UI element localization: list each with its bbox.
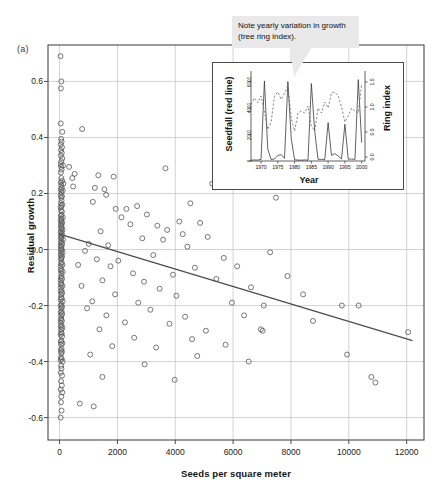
scatter-point: [177, 219, 182, 224]
scatter-point: [144, 212, 149, 217]
scatter-point: [180, 232, 185, 237]
inset-y2-axis-title: Ring index: [382, 48, 392, 168]
x-tick-label: 6000: [224, 447, 243, 457]
x-tick-label: 8000: [281, 447, 300, 457]
scatter-point: [58, 121, 63, 126]
y-axis-title: Residual growth: [25, 156, 36, 316]
inset-x-tick-label: 1985: [306, 164, 317, 170]
inset-y-tick-label: 6000: [247, 76, 252, 86]
scatter-point: [157, 286, 162, 291]
scatter-point: [60, 129, 65, 134]
scatter-point: [106, 243, 111, 248]
scatter-point: [85, 306, 90, 311]
y-tick-label: 0.4: [18, 132, 43, 142]
scatter-point: [154, 345, 159, 350]
inset-y2-tick-label: 0.0: [369, 153, 375, 160]
scatter-point: [80, 127, 85, 132]
inset-x-tick-label: 1975: [272, 164, 283, 170]
scatter-point: [163, 166, 168, 171]
annotation-callout: Note yearly variation in growth (tree ri…: [232, 16, 359, 48]
inset-x-tick-label: 2000: [356, 164, 367, 170]
scatter-point: [94, 257, 99, 262]
scatter-point: [373, 380, 378, 385]
inset-y2-tick-label: 1.5: [369, 78, 375, 85]
inset-x-tick-label: 1970: [255, 164, 266, 170]
scatter-point: [104, 313, 109, 318]
scatter-point: [122, 320, 127, 325]
scatter-point: [58, 86, 63, 91]
y-tick-label: 0.6: [18, 76, 43, 86]
scatter-point: [140, 236, 145, 241]
scatter-point: [102, 187, 107, 192]
scatter-point: [155, 223, 160, 228]
scatter-point: [165, 227, 170, 232]
scatter-point: [223, 342, 228, 347]
inset-y2-tick-label: 1.0: [369, 103, 375, 110]
scatter-point: [116, 258, 121, 263]
scatter-point: [100, 374, 105, 379]
inset-y2-tick-label: 0.5: [369, 128, 375, 135]
scatter-point: [161, 237, 166, 242]
scatter-point: [92, 185, 97, 190]
scatter-point: [310, 318, 315, 323]
scatter-point: [235, 264, 240, 269]
inset-plot-svg: [213, 63, 405, 191]
scatter-point: [148, 307, 153, 312]
scatter-point: [124, 206, 129, 211]
scatter-point: [88, 352, 93, 357]
scatter-point: [111, 174, 116, 179]
inset-y-axis-title: Seedfall (red line): [224, 54, 234, 174]
x-tick-label: 12000: [395, 447, 419, 457]
inset-x-tick-label: 1990: [323, 164, 334, 170]
scatter-point: [172, 377, 177, 382]
inset-y-tick-label: 2000: [247, 129, 252, 139]
scatter-point: [110, 344, 115, 349]
scatter-point: [167, 321, 172, 326]
x-tick-label: 0: [57, 447, 62, 457]
ring-index-line: [251, 85, 362, 132]
scatter-point: [301, 292, 306, 297]
x-tick-label: 10000: [337, 447, 361, 457]
scatter-point: [100, 278, 105, 283]
inset-y-tick-label: 4000: [247, 103, 252, 113]
scatter-point: [135, 204, 140, 209]
y-tick-label: 0.0: [18, 245, 43, 255]
inset-y-tick-label: 0: [247, 160, 252, 163]
x-axis-title: Seeds per square meter: [48, 468, 424, 479]
scatter-point: [142, 362, 147, 367]
scatter-point: [58, 54, 63, 59]
scatter-point: [203, 328, 208, 333]
scatter-point: [198, 220, 203, 225]
scatter-point: [285, 274, 290, 279]
scatter-point: [76, 262, 81, 267]
y-tick-label: -0.2: [18, 301, 43, 311]
scatter-point: [273, 195, 278, 200]
scatter-point: [90, 299, 95, 304]
scatter-point: [369, 374, 374, 379]
y-tick-label: 0.2: [18, 188, 43, 198]
inset-x-tick-label: 1980: [289, 164, 300, 170]
scatter-point: [91, 404, 96, 409]
scatter-point: [70, 176, 75, 181]
panel-label: (a): [17, 44, 29, 54]
seedfall-line: [251, 80, 362, 161]
scatter-point: [128, 222, 133, 227]
scatter-point: [108, 264, 113, 269]
scatter-point: [205, 234, 210, 239]
scatter-point: [174, 293, 179, 298]
scatter-point: [131, 271, 136, 276]
scatter-point: [185, 244, 190, 249]
scatter-point: [221, 255, 226, 260]
scatter-point: [79, 283, 84, 288]
scatter-point: [188, 201, 193, 206]
regression-trendline: [60, 234, 413, 340]
callout-tail-icon: [290, 47, 326, 79]
scatter-point: [77, 401, 82, 406]
scatter-point: [195, 353, 200, 358]
inset-plot: Seedfall (red line) Ring index Year 1970…: [212, 62, 404, 190]
x-tick-label: 4000: [166, 447, 185, 457]
scatter-point: [71, 184, 76, 189]
scatter-point: [249, 285, 254, 290]
scatter-point: [142, 279, 147, 284]
figure-panel-a: (a) Seeds per square meter Residual grow…: [0, 0, 437, 496]
